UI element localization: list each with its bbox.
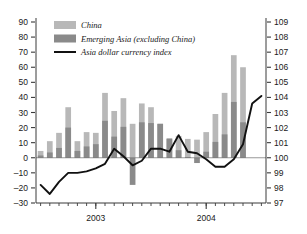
bar-emerging-asia: [222, 134, 228, 157]
right-tick-label: 99: [274, 168, 284, 178]
left-tick-label: –10: [14, 168, 28, 178]
bar-china: [130, 124, 136, 158]
bar-emerging-asia: [231, 102, 237, 158]
left-tick-label: 0: [23, 153, 28, 163]
left-tick-label: 80: [19, 32, 29, 42]
bar-emerging-asia: [139, 122, 145, 157]
legend-label: Asia dollar currency index: [80, 47, 172, 57]
bar-emerging-asia: [194, 158, 200, 163]
right-tick-label: 105: [274, 77, 288, 87]
left-tick-label: 90: [19, 17, 29, 27]
bar-emerging-asia: [56, 148, 62, 158]
bar-emerging-asia: [47, 152, 53, 157]
bottom-axis: 20032004: [41, 203, 262, 223]
bar-emerging-asia: [130, 158, 136, 185]
bar-emerging-asia: [102, 121, 108, 158]
year-label: 2003: [86, 213, 105, 223]
right-tick-label: 100: [274, 153, 288, 163]
legend-label: China: [81, 20, 102, 30]
bar-emerging-asia: [84, 146, 90, 157]
right-tick-label: 109: [274, 17, 288, 27]
right-tick-label: 101: [274, 138, 288, 148]
right-tick-label: 97: [274, 198, 284, 208]
legend: ChinaEmerging Asia (excluding China)Asia…: [54, 20, 195, 57]
right-tick-label: 107: [274, 47, 288, 57]
year-label: 2004: [197, 213, 216, 223]
right-tick-label: 104: [274, 92, 288, 102]
bar-emerging-asia: [157, 124, 163, 158]
chart-figure: 9080706050403020100–10–20–30109108107106…: [0, 0, 307, 234]
right-tick-label: 102: [274, 123, 288, 133]
left-tick-label: 60: [19, 62, 29, 72]
left-tick-label: 10: [19, 138, 29, 148]
left-tick-label: 70: [19, 47, 29, 57]
left-tick-label: 50: [19, 77, 29, 87]
legend-swatch: [54, 21, 76, 29]
right-tick-label: 106: [274, 62, 288, 72]
right-tick-label: 103: [274, 108, 288, 118]
left-tick-label: 30: [19, 108, 29, 118]
left-tick-label: 20: [19, 123, 29, 133]
bar-emerging-asia: [65, 128, 71, 158]
bar-emerging-asia: [213, 142, 219, 158]
right-tick-label: 108: [274, 32, 288, 42]
chart-canvas: 9080706050403020100–10–20–30109108107106…: [0, 0, 307, 234]
bar-emerging-asia: [93, 144, 99, 158]
left-axis: 9080706050403020100–10–20–30: [14, 17, 35, 208]
bar-emerging-asia: [121, 127, 127, 158]
left-tick-label: –20: [14, 183, 28, 193]
legend-label: Emerging Asia (excluding China): [80, 34, 195, 44]
bar-emerging-asia: [75, 151, 81, 158]
legend-swatch: [54, 35, 76, 43]
bar-emerging-asia: [111, 137, 117, 158]
right-axis: 109108107106105104103102101100999897: [267, 17, 288, 208]
left-tick-label: 40: [19, 92, 29, 102]
right-tick-label: 98: [274, 183, 284, 193]
bar-emerging-asia: [176, 150, 182, 158]
left-tick-label: –30: [14, 198, 28, 208]
